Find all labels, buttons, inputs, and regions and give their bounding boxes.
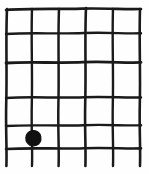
hand-drawn-grid-figure — [0, 0, 149, 174]
data-point-marker — [26, 131, 41, 146]
filled-dot-icon — [26, 131, 41, 146]
grid-line-vertical-left — [6, 9, 7, 166]
grid-line-horizontal-bottom — [6, 148, 141, 149]
figure-root — [0, 0, 149, 174]
grid-line-vertical-3 — [85, 8, 86, 166]
grid-line-horizontal-1 — [6, 33, 141, 34]
grid-line-vertical-4 — [113, 9, 114, 166]
grid-line-vertical-2 — [58, 9, 59, 166]
grid-line-horizontal-3 — [6, 97, 141, 98]
grid-line-horizontal-top — [6, 8, 141, 10]
grid-line-horizontal-4 — [6, 125, 141, 126]
grid-line-vertical-right — [140, 9, 141, 166]
grid-line-horizontal-2 — [6, 62, 141, 63]
